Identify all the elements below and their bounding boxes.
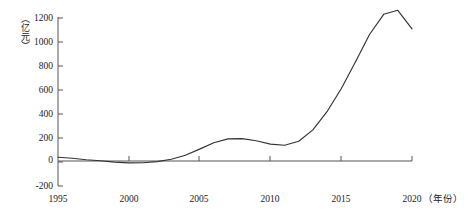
x-tick-label: 2000 xyxy=(120,194,139,205)
line-chart: （亿元） 1200 1000 800 600 400 200 0 -200 xyxy=(0,0,473,222)
x-tick-label: 2005 xyxy=(190,194,209,205)
x-axis-tick-labels: 1995 2000 2005 2010 2015 2020 （年份） xyxy=(0,0,473,222)
x-tick-label: 1995 xyxy=(49,194,68,205)
x-tick-label: 2015 xyxy=(332,194,351,205)
x-axis-unit-label: （年份） xyxy=(423,194,463,205)
x-tick-label: 2010 xyxy=(261,194,280,205)
x-tick-label: 2020 xyxy=(403,194,422,205)
